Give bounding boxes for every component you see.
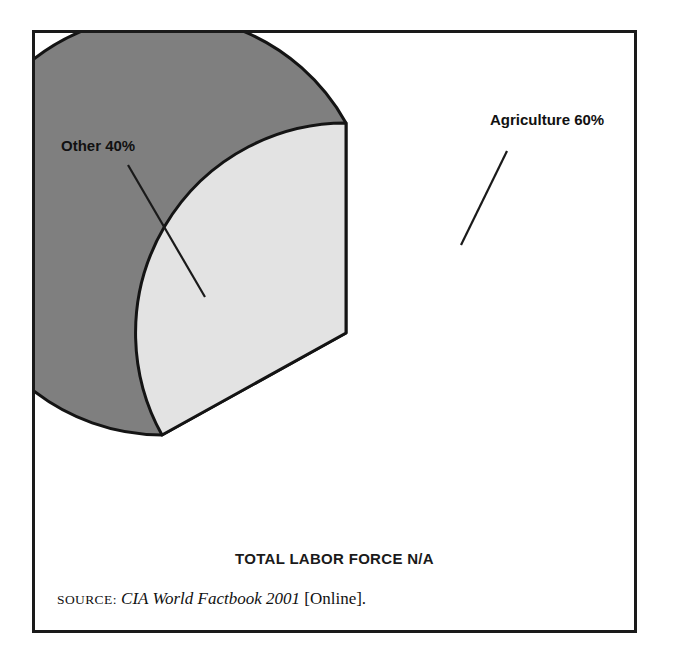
pie-label-agriculture: Agriculture 60% <box>490 111 604 128</box>
leader-line-agriculture <box>461 151 507 245</box>
page-title: Senegal <box>59 49 138 73</box>
leader-line-other <box>128 165 205 297</box>
source-label: SOURCE: <box>57 592 117 607</box>
source-suffix: [Online]. <box>304 589 366 608</box>
figure-frame: Senegal LABOR FORCE–BY OCCUPATION Agricu… <box>32 30 637 633</box>
total-labor-force-caption: TOTAL LABOR FORCE N/A <box>35 550 634 567</box>
source-line: SOURCE: CIA World Factbook 2001 [Online]… <box>57 589 366 609</box>
chart-subtitle: LABOR FORCE–BY OCCUPATION <box>59 77 316 95</box>
pie-slice-other[interactable] <box>136 123 346 435</box>
pie-label-other: Other 40% <box>61 137 135 154</box>
source-title: CIA World Factbook 2001 <box>121 589 300 608</box>
